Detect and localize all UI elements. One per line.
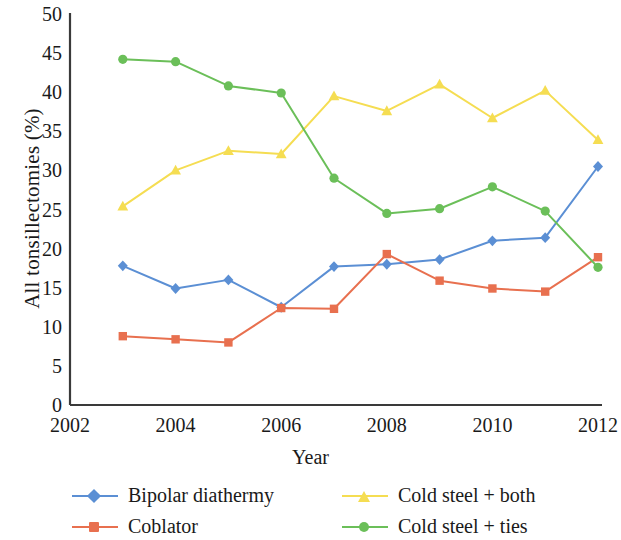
data-point-marker — [224, 81, 233, 90]
legend-marker-icon — [87, 488, 101, 502]
y-tick-label: 5 — [16, 356, 62, 376]
y-tick-label: 50 — [16, 4, 62, 24]
y-tick-label: 40 — [16, 82, 62, 102]
x-tick-label: 2010 — [457, 415, 527, 435]
legend-label: Bipolar diathermy — [128, 484, 274, 507]
data-point-marker — [593, 263, 602, 272]
data-point-marker — [223, 274, 233, 285]
data-point-marker — [435, 204, 444, 213]
data-point-marker — [541, 287, 549, 295]
series-line — [123, 84, 598, 206]
data-point-marker — [119, 332, 127, 340]
legend-marker-icon — [359, 522, 369, 532]
legend-key-square-icon — [72, 520, 118, 534]
x-tick-label: 2008 — [352, 415, 422, 435]
data-point-marker — [329, 91, 340, 101]
data-point-marker — [329, 174, 338, 183]
data-point-marker — [224, 338, 232, 346]
data-point-marker — [383, 250, 391, 258]
series-line — [123, 254, 598, 342]
data-point-marker — [171, 335, 179, 343]
y-tick-label: 10 — [16, 317, 62, 337]
data-point-marker — [118, 260, 128, 271]
data-point-marker — [117, 201, 128, 211]
chart-legend: Bipolar diathermyCold steel + bothCoblat… — [72, 484, 612, 538]
x-axis-title: Year — [0, 446, 621, 469]
y-tick-label: 20 — [16, 239, 62, 259]
y-tick-label: 45 — [16, 43, 62, 63]
data-point-marker — [382, 209, 391, 218]
data-point-marker — [330, 305, 338, 313]
legend-marker-icon — [358, 491, 370, 502]
y-tick-label: 0 — [16, 395, 62, 415]
data-point-marker — [277, 304, 285, 312]
line-chart: All tonsillectomies (%) 0510152025303540… — [0, 0, 621, 540]
x-tick-label: 2002 — [35, 415, 105, 435]
data-point-marker — [541, 206, 550, 215]
legend-label: Coblator — [128, 515, 198, 538]
legend-marker-icon — [89, 522, 99, 532]
legend-key-circle-icon — [342, 520, 388, 534]
data-point-marker — [434, 79, 445, 89]
legend-item-coblator[interactable]: Coblator — [72, 515, 342, 538]
data-point-marker — [487, 235, 497, 246]
series-cold-steel-both — [117, 79, 603, 211]
data-point-marker — [488, 182, 497, 191]
series-line — [123, 166, 598, 307]
data-point-marker — [487, 112, 498, 122]
x-tick-label: 2012 — [563, 415, 621, 435]
data-point-marker — [435, 254, 445, 265]
legend-item-bipolar-diathermy[interactable]: Bipolar diathermy — [72, 484, 342, 507]
data-point-marker — [435, 276, 443, 284]
y-tick-label: 25 — [16, 200, 62, 220]
x-tick-label: 2004 — [141, 415, 211, 435]
x-tick-label: 2006 — [246, 415, 316, 435]
data-point-marker — [277, 88, 286, 97]
legend-label: Cold steel + both — [398, 484, 535, 507]
y-tick-label: 30 — [16, 160, 62, 180]
data-point-marker — [540, 85, 551, 95]
legend-label: Cold steel + ties — [398, 515, 528, 538]
y-tick-label: 15 — [16, 278, 62, 298]
legend-key-triangle-icon — [342, 489, 388, 503]
data-point-marker — [488, 284, 496, 292]
legend-item-cold-steel-ties[interactable]: Cold steel + ties — [342, 515, 612, 538]
data-point-marker — [594, 253, 602, 261]
data-point-marker — [171, 57, 180, 66]
legend-item-cold-steel-both[interactable]: Cold steel + both — [342, 484, 612, 507]
data-point-marker — [118, 55, 127, 64]
legend-key-diamond-icon — [72, 489, 118, 503]
data-point-marker — [171, 283, 181, 294]
series-coblator — [119, 250, 603, 347]
data-point-marker — [382, 259, 392, 270]
y-tick-label: 35 — [16, 121, 62, 141]
